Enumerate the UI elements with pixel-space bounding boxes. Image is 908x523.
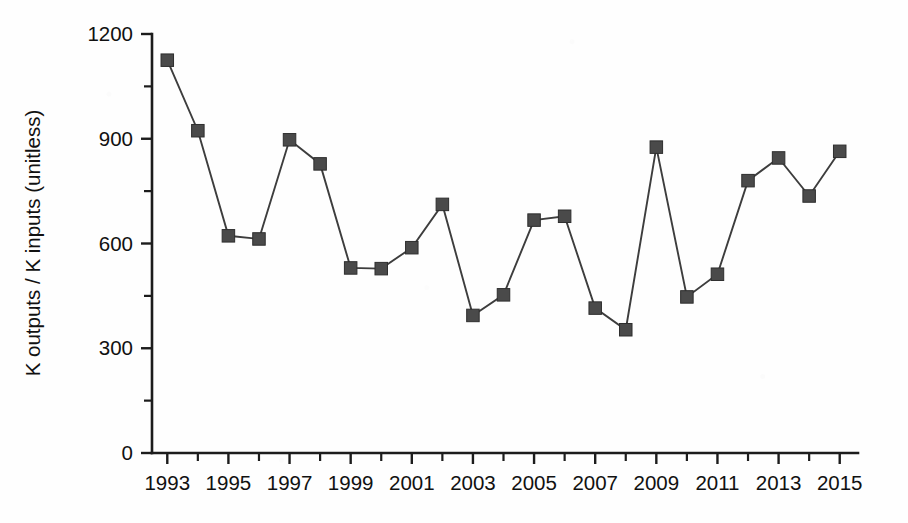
data-point-marker xyxy=(375,262,388,275)
x-tick-label: 2003 xyxy=(450,471,496,494)
data-point-marker xyxy=(803,190,816,203)
data-point-marker xyxy=(833,145,846,158)
data-point-marker xyxy=(528,214,541,227)
data-point-marker xyxy=(436,198,449,211)
y-tick-label: 1200 xyxy=(87,22,133,45)
data-point-marker xyxy=(222,230,235,243)
y-axis-ticks xyxy=(141,34,152,453)
y-tick-label: 0 xyxy=(122,441,133,464)
x-tick-label: 2013 xyxy=(756,471,802,494)
y-tick-label: 900 xyxy=(99,127,133,150)
data-point-marker xyxy=(558,210,571,223)
x-tick-label: 1993 xyxy=(144,471,190,494)
data-point-marker xyxy=(742,174,755,187)
x-tick-label: 1999 xyxy=(328,471,374,494)
data-point-marker xyxy=(283,134,296,147)
x-axis-tick-labels: 1993199519971999200120032005200720092011… xyxy=(144,471,862,494)
data-point-marker xyxy=(314,158,327,171)
x-tick-label: 2011 xyxy=(695,471,739,494)
data-point-marker xyxy=(711,268,724,281)
data-point-marker xyxy=(467,309,480,322)
x-tick-label: 2001 xyxy=(389,471,435,494)
y-axis-title: K outputs / K inputs (unitless) xyxy=(21,110,44,377)
data-point-marker xyxy=(406,241,419,254)
x-tick-label: 1997 xyxy=(267,471,313,494)
x-tick-label: 2015 xyxy=(817,471,863,494)
y-axis-tick-labels: 03006009001200 xyxy=(87,22,133,464)
data-point-marker xyxy=(772,152,785,165)
data-point-marker xyxy=(681,291,694,304)
data-point-marker xyxy=(497,289,510,302)
x-axis-ticks xyxy=(167,453,839,464)
chart-page: 03006009001200 1993199519971999200120032… xyxy=(0,0,908,523)
x-tick-label: 1995 xyxy=(206,471,252,494)
y-tick-label: 300 xyxy=(99,336,133,359)
x-tick-label: 2009 xyxy=(634,471,680,494)
line-chart: 03006009001200 1993199519971999200120032… xyxy=(0,0,908,523)
data-point-marker xyxy=(253,233,265,246)
data-point-marker xyxy=(192,124,205,137)
data-point-marker xyxy=(650,141,663,154)
data-point-marker xyxy=(589,302,602,315)
x-tick-label: 2005 xyxy=(511,471,557,494)
data-point-marker xyxy=(161,54,174,67)
y-tick-label: 600 xyxy=(99,232,133,255)
x-tick-label: 2007 xyxy=(572,471,618,494)
data-point-marker xyxy=(620,323,633,336)
data-point-marker xyxy=(344,262,357,275)
